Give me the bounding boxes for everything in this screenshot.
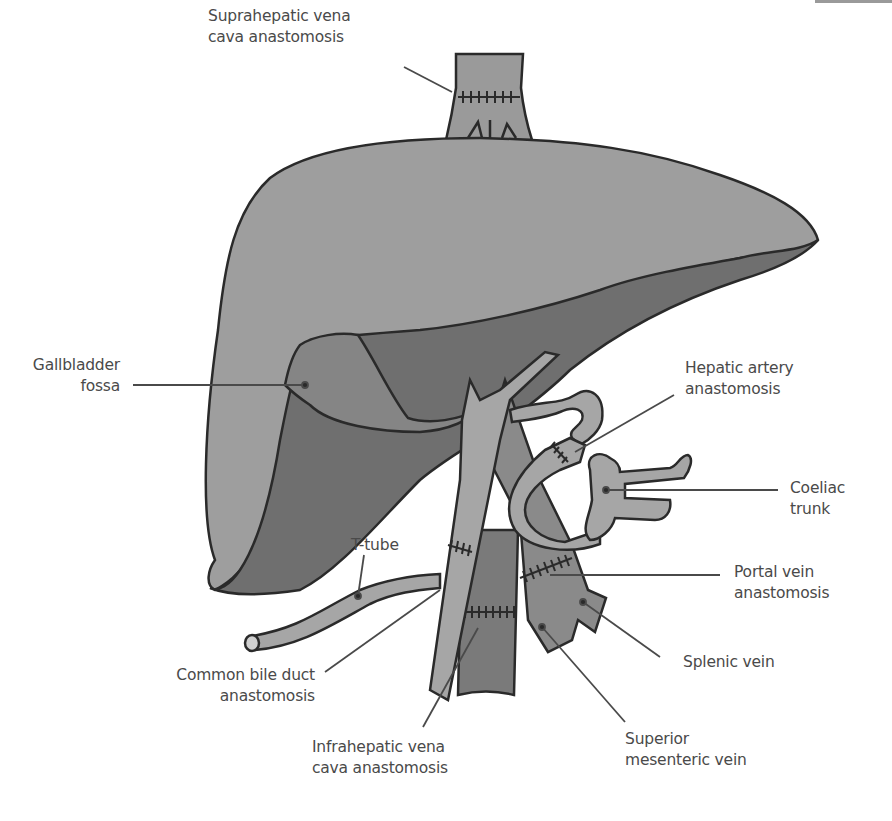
coeliac-trunk: [586, 454, 691, 540]
label-line: T-tube: [351, 536, 399, 554]
leader-superior-mesenteric: [542, 627, 625, 722]
label-line: anastomosis: [685, 380, 780, 398]
label-hepatic-artery-anastomosis: Hepatic arteryanastomosis: [685, 358, 794, 400]
label-infrahepatic-vena-cava-anastomosis: Infrahepatic venacava anastomosis: [312, 737, 448, 779]
label-line: Infrahepatic vena: [312, 738, 445, 756]
label-line: Splenic vein: [683, 653, 775, 671]
label-line: mesenteric vein: [625, 751, 747, 769]
label-line: Gallbladder: [33, 356, 120, 374]
label-line: fossa: [80, 377, 120, 395]
label-line: anastomosis: [734, 584, 829, 602]
label-line: Hepatic artery: [685, 359, 794, 377]
label-line: Coeliac: [790, 479, 845, 497]
label-line: Portal vein: [734, 563, 814, 581]
label-splenic-vein: Splenic vein: [683, 652, 775, 673]
label-t-tube: T-tube: [351, 535, 399, 556]
label-coeliac-trunk: Coeliactrunk: [790, 478, 845, 520]
label-line: anastomosis: [220, 687, 315, 705]
label-common-bile-duct-anastomosis: Common bile ductanastomosis: [150, 665, 315, 707]
label-line: trunk: [790, 500, 830, 518]
label-gallbladder-fossa: Gallbladderfossa: [30, 355, 120, 397]
label-suprahepatic-vena-cava: Suprahepatic venacava anastomosis: [208, 6, 351, 48]
label-line: cava anastomosis: [312, 759, 448, 777]
liver-diagram: [0, 0, 892, 821]
label-line: Suprahepatic vena: [208, 7, 351, 25]
label-line: cava anastomosis: [208, 28, 344, 46]
label-superior-mesenteric-vein: Superiormesenteric vein: [625, 729, 747, 771]
label-portal-vein-anastomosis: Portal veinanastomosis: [734, 562, 829, 604]
label-line: Common bile duct: [176, 666, 315, 684]
suprahepatic-vena-cava: [446, 54, 532, 140]
label-line: Superior: [625, 730, 689, 748]
leader-suprahepatic: [404, 67, 452, 92]
